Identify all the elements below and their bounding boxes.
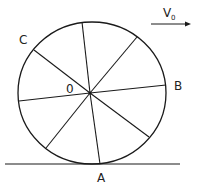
spoke	[90, 93, 100, 164]
label-a: A	[97, 171, 106, 185]
label-c: C	[19, 33, 27, 47]
spoke	[90, 37, 137, 93]
spoke	[34, 50, 90, 93]
arrowhead-icon	[185, 22, 191, 27]
wheel-diagram: V 0 C 0 B A	[0, 0, 199, 187]
spoke	[82, 22, 90, 93]
spoke	[19, 93, 90, 101]
spoke	[90, 85, 166, 93]
spoke	[90, 93, 149, 137]
velocity-subscript: 0	[171, 14, 175, 22]
label-b: B	[174, 79, 182, 93]
center-hub	[88, 91, 91, 94]
spoke	[46, 93, 90, 148]
label-center: 0	[66, 82, 74, 96]
